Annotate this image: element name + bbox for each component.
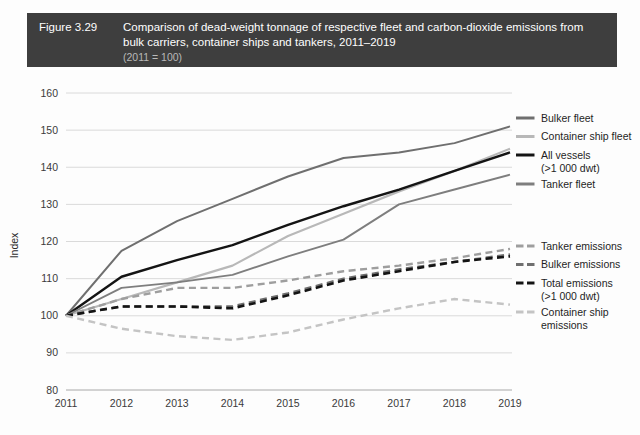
x-tick-label: 2019 — [498, 397, 522, 409]
y-tick-label: 110 — [41, 272, 58, 284]
line-chart-svg: 8090100110120130140150160 Index 20112012… — [0, 70, 640, 435]
chart-area: 8090100110120130140150160 Index 20112012… — [0, 70, 640, 435]
legend-label-second-line: (>1 000 dwt) — [541, 162, 600, 174]
legend-emissions-entry[interactable]: Total emissions(>1 000 dwt) — [516, 277, 613, 302]
legend-fleet-entry[interactable]: Container ship fleet — [516, 130, 632, 142]
y-tick-label: 160 — [40, 87, 58, 99]
x-tick-label: 2014 — [221, 397, 245, 409]
x-tick-label: 2015 — [276, 397, 300, 409]
x-tick-label: 2013 — [165, 397, 189, 409]
legend-label: Tanker fleet — [541, 178, 595, 190]
x-tick-label: 2012 — [110, 397, 134, 409]
legend-label-second-line: emissions — [541, 319, 588, 331]
legend-label: Total emissions — [541, 277, 613, 289]
figure-subtitle: (2011 = 100) — [123, 50, 607, 64]
y-tick-label: 80 — [46, 384, 58, 396]
legend-label: Bulker emissions — [541, 258, 620, 270]
series-line-tanker-emissions — [66, 249, 510, 316]
legend-emissions-entry[interactable]: Container shipemissions — [516, 306, 609, 331]
legend-label: Container ship — [541, 306, 609, 318]
x-tick-label: 2017 — [387, 397, 411, 409]
legend-label-second-line: (>1 000 dwt) — [541, 290, 600, 302]
legend-fleet-entry[interactable]: Bulker fleet — [516, 112, 594, 124]
y-tick-label: 140 — [40, 161, 58, 173]
figure-number: Figure 3.29 — [39, 20, 123, 35]
legend-label: Tanker emissions — [541, 240, 622, 252]
y-tick-label: 120 — [40, 235, 58, 247]
legend-label: Bulker fleet — [541, 112, 594, 124]
legend-label: Container ship fleet — [541, 130, 632, 142]
legend-emissions-entry[interactable]: Bulker emissions — [516, 258, 620, 270]
figure-title: Comparison of dead-weight tonnage of res… — [123, 20, 607, 49]
x-axis-tick-labels: 201120122013201420152016201720182019 — [55, 390, 522, 409]
y-tick-label: 130 — [40, 198, 58, 210]
x-tick-label: 2016 — [332, 397, 356, 409]
legend-fleet-entry[interactable]: All vessels(>1 000 dwt) — [516, 149, 600, 174]
y-axis-title: Index — [8, 232, 20, 258]
gridlines — [66, 93, 512, 390]
data-series-lines — [66, 126, 510, 339]
y-tick-label: 150 — [40, 124, 58, 136]
y-tick-label: 100 — [40, 309, 58, 321]
x-tick-label: 2011 — [55, 397, 78, 409]
chart-legend: Bulker fleetContainer ship fleetAll vess… — [516, 112, 632, 331]
figure-header-banner: Figure 3.29 Comparison of dead-weight to… — [27, 13, 617, 67]
series-line-container-ship-emissions — [66, 299, 510, 340]
legend-label: All vessels — [541, 149, 591, 161]
legend-emissions-entry[interactable]: Tanker emissions — [516, 240, 622, 252]
figure-container: Figure 3.29 Comparison of dead-weight to… — [0, 0, 640, 435]
y-tick-label: 90 — [46, 346, 58, 358]
x-tick-label: 2018 — [443, 397, 467, 409]
y-axis-tick-labels: 8090100110120130140150160 — [40, 87, 58, 396]
legend-fleet-entry[interactable]: Tanker fleet — [516, 178, 595, 190]
